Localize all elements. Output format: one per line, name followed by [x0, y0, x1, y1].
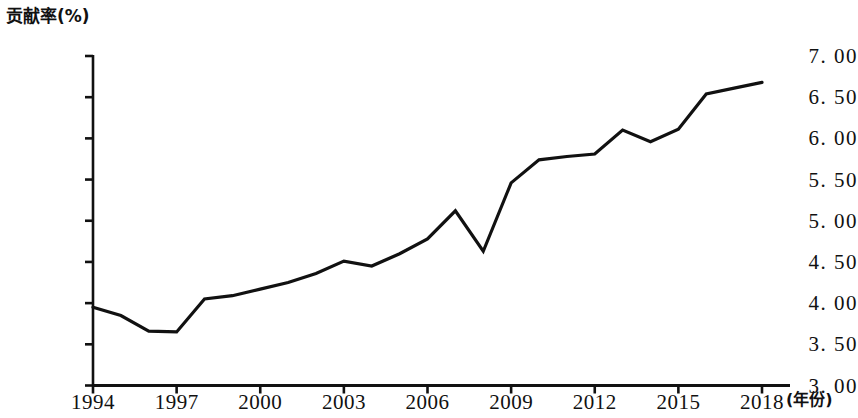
chart-axes [85, 55, 790, 394]
chart-page: 贡献率(%) (年份) 7. 006. 506. 005. 505. 004. … [0, 0, 858, 418]
line-chart-plot [0, 0, 858, 418]
data-series-line [93, 82, 762, 332]
